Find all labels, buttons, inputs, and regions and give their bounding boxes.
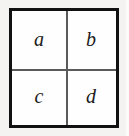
- matrix-grid: a b c d: [9, 8, 119, 128]
- matrix-cell-bottom-right: d: [64, 68, 116, 125]
- matrix-cell-label-c: c: [35, 86, 44, 106]
- vertical-divider-line: [66, 11, 68, 125]
- right-edge-strip: [126, 0, 129, 136]
- matrix-cell-label-a: a: [34, 29, 44, 49]
- matrix-cell-label-d: d: [86, 86, 96, 106]
- horizontal-divider-line: [12, 69, 116, 71]
- matrix-cell-label-b: b: [86, 29, 96, 49]
- matrix-cell-top-right: b: [64, 11, 116, 68]
- figure-canvas: a b c d: [0, 0, 129, 136]
- matrix-cell-bottom-left: c: [12, 68, 64, 125]
- matrix-cell-top-left: a: [12, 11, 64, 68]
